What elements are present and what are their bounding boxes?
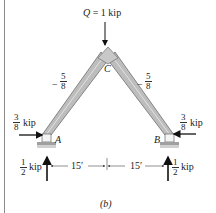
joint-label-c: C bbox=[104, 64, 111, 74]
reaction-a-vertical-value: 1 2 bbox=[20, 158, 27, 177]
reaction-b-vertical-value: 1 2 bbox=[172, 158, 179, 177]
reaction-b-vertical-unit: kip bbox=[181, 162, 194, 172]
member-ac-sign: − bbox=[52, 80, 58, 90]
member-ac bbox=[42, 52, 108, 135]
member-bc-sign: − bbox=[137, 80, 143, 90]
member-bc-force-den: 8 bbox=[145, 82, 152, 91]
dimension-right: 15′ bbox=[130, 161, 142, 171]
member-bc-force: 5 8 bbox=[145, 72, 152, 91]
dimension-lines bbox=[51, 158, 164, 170]
joint-label-b: B bbox=[154, 135, 160, 145]
joint-label-a: A bbox=[55, 135, 61, 145]
reaction-a-v-den: 2 bbox=[20, 168, 27, 177]
member-bc bbox=[108, 52, 174, 135]
truss-diagram bbox=[0, 0, 216, 213]
member-ac-force-den: 8 bbox=[60, 82, 67, 91]
dimension-left: 15′ bbox=[71, 161, 83, 171]
support-b bbox=[160, 134, 179, 148]
reaction-a-horizontal-value: 3 8 bbox=[13, 113, 20, 132]
load-value: = 1 kip bbox=[93, 7, 121, 18]
support-a bbox=[37, 134, 56, 148]
reaction-a-h-den: 8 bbox=[13, 123, 20, 132]
reaction-b-horizontal-value: 3 8 bbox=[180, 113, 187, 132]
reaction-b-v-den: 2 bbox=[172, 168, 179, 177]
load-symbol: Q bbox=[83, 7, 90, 18]
load-label: Q = 1 kip bbox=[83, 8, 121, 18]
reaction-a-horizontal-unit: kip bbox=[23, 118, 36, 128]
reaction-b-horizontal-unit: kip bbox=[190, 118, 203, 128]
member-ac-force: 5 8 bbox=[60, 72, 67, 91]
figure-caption: (b) bbox=[100, 199, 112, 209]
reaction-a-vertical-unit: kip bbox=[29, 162, 42, 172]
reaction-b-h-den: 8 bbox=[180, 123, 187, 132]
